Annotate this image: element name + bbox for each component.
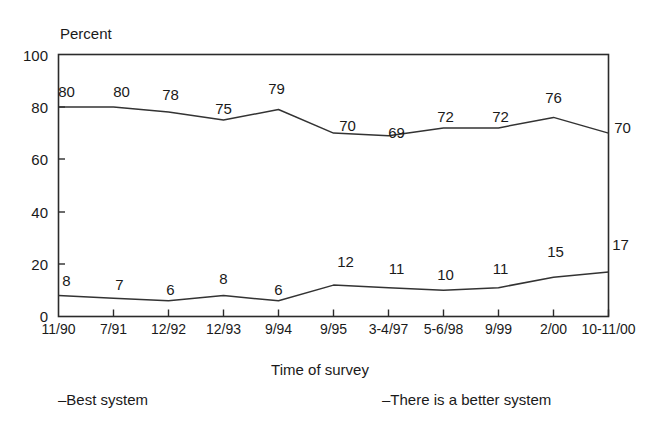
x-axis-tick-label: 10-11/00 <box>581 322 635 337</box>
chart-figure: Percent 100 80 60 40 20 0 11/907/9112/92… <box>0 0 672 430</box>
data-label-better-system: 6 <box>274 282 282 297</box>
x-axis-tick-label: 12/93 <box>206 322 241 337</box>
data-label-better-system: 8 <box>219 271 227 286</box>
data-label-better-system: 7 <box>115 277 123 292</box>
data-label-better-system: 6 <box>166 282 174 297</box>
x-axis-tick-label: 9/94 <box>265 322 292 337</box>
data-label-best-system: 72 <box>437 109 454 124</box>
data-label-better-system: 17 <box>612 237 629 252</box>
x-axis-tick-label: 11/90 <box>42 322 76 337</box>
data-label-best-system: 70 <box>339 118 356 133</box>
data-label-better-system: 8 <box>62 273 70 288</box>
y-axis-ticks <box>59 107 66 264</box>
x-axis-tick-label: 7/91 <box>100 322 127 337</box>
data-label-better-system: 10 <box>437 267 454 282</box>
data-label-best-system: 70 <box>614 120 631 135</box>
plot-frame <box>59 55 609 317</box>
legend-item-best-system: –Best system <box>58 392 148 408</box>
data-label-better-system: 12 <box>337 254 354 269</box>
data-label-best-system: 69 <box>388 125 405 140</box>
x-axis-title: Time of survey <box>0 361 640 378</box>
x-axis-tick-label: 9/99 <box>485 322 512 337</box>
x-axis-tick-label: 12/92 <box>151 322 186 337</box>
data-label-best-system: 80 <box>58 84 75 99</box>
data-label-better-system: 15 <box>547 244 564 259</box>
series-line-better-system <box>59 272 609 301</box>
x-axis-tick-label: 5-6/98 <box>424 322 464 337</box>
legend-item-better-system: –There is a better system <box>382 392 551 408</box>
data-label-best-system: 76 <box>545 90 562 105</box>
data-label-best-system: 79 <box>268 81 285 96</box>
data-label-best-system: 80 <box>113 84 130 99</box>
x-axis-ticks <box>114 310 609 317</box>
data-label-better-system: 11 <box>389 261 405 276</box>
data-label-best-system: 75 <box>215 101 232 116</box>
data-label-better-system: 11 <box>493 261 509 276</box>
series-line-best-system <box>59 107 609 136</box>
x-axis-tick-label: 9/95 <box>320 322 347 337</box>
data-label-best-system: 78 <box>162 87 179 102</box>
data-label-best-system: 72 <box>492 109 509 124</box>
x-axis-tick-label: 2/00 <box>540 322 567 337</box>
x-axis-tick-label: 3-4/97 <box>369 322 409 337</box>
